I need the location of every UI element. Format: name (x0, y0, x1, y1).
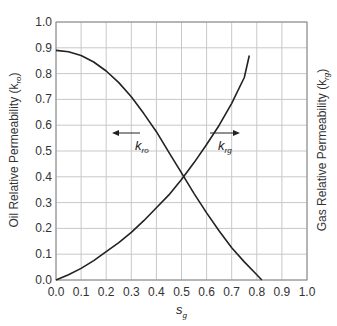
k-ro-curve (56, 50, 262, 280)
x-axis-ticks: 0.00.10.20.30.40.50.60.70.80.91.0 (48, 285, 316, 299)
relative-permeability-chart: 0.00.10.20.30.40.50.60.70.80.91.0 0.00.1… (0, 0, 337, 326)
y-tick-label: 0.7 (35, 92, 52, 106)
y-tick-label: 0.0 (35, 273, 52, 287)
y-tick-label: 1.0 (35, 15, 52, 29)
grid-lines (56, 22, 307, 280)
y-axis-title-left: Oil Relative Permeability (kro) (7, 72, 23, 227)
y-tick-label: 0.8 (35, 67, 52, 81)
x-tick-label: 0.9 (274, 285, 291, 299)
y-tick-label: 0.9 (35, 41, 52, 55)
x-tick-label: 0.8 (248, 285, 265, 299)
k-rg-curve (56, 56, 249, 281)
krg-label: krg (218, 138, 232, 155)
y-axis-title-right: Gas Relative Permeability (krg) (315, 69, 331, 232)
curves (56, 50, 262, 280)
x-tick-label: 0.4 (148, 285, 165, 299)
kro-label: kro (135, 138, 149, 155)
x-tick-label: 0.7 (223, 285, 240, 299)
x-tick-label: 0.3 (123, 285, 140, 299)
y-tick-label: 0.1 (35, 247, 52, 261)
x-tick-label: 0.5 (173, 285, 190, 299)
y-tick-label: 0.5 (35, 144, 52, 158)
y-tick-label: 0.3 (35, 196, 52, 210)
right-arrow-icon (233, 130, 240, 136)
y-tick-label: 0.4 (35, 170, 52, 184)
x-tick-label: 0.0 (48, 285, 65, 299)
left-arrow-icon (112, 130, 119, 136)
x-axis-title: sg (176, 302, 188, 320)
y-tick-label: 0.2 (35, 221, 52, 235)
x-tick-label: 0.1 (73, 285, 90, 299)
x-tick-label: 1.0 (299, 285, 316, 299)
x-tick-label: 0.6 (198, 285, 215, 299)
y-axis-ticks: 0.00.10.20.30.40.50.60.70.80.91.0 (35, 15, 52, 287)
x-tick-label: 0.2 (98, 285, 115, 299)
y-tick-label: 0.6 (35, 118, 52, 132)
